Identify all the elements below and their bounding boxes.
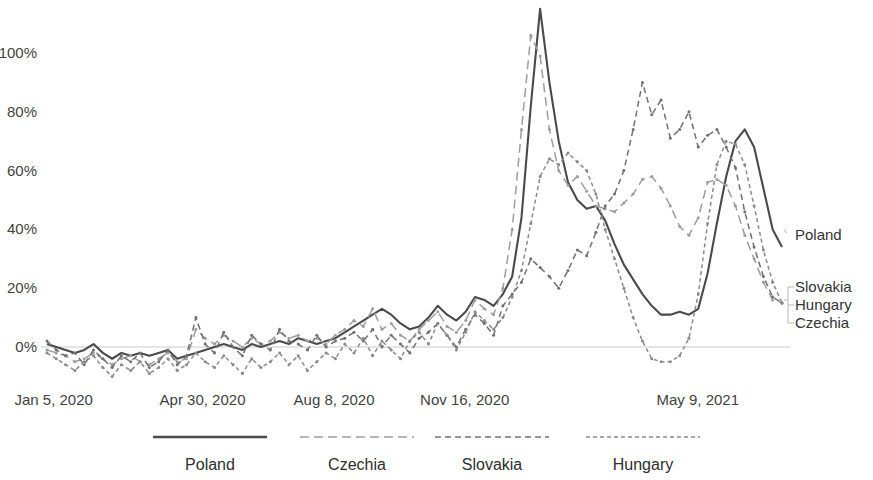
- series-end-label-poland: Poland: [795, 226, 842, 243]
- series-marker: [148, 366, 151, 369]
- series-marker: [306, 369, 309, 372]
- series-marker: [343, 337, 346, 340]
- series-line-hungary: [47, 141, 782, 376]
- series-marker: [241, 354, 244, 357]
- series-marker: [781, 301, 784, 304]
- series-marker: [166, 348, 169, 351]
- series-marker: [278, 328, 281, 331]
- series-marker: [557, 287, 560, 290]
- y-axis-tick-group: 0%20%40%60%80%100%: [0, 44, 37, 355]
- series-marker: [706, 222, 709, 225]
- series-marker: [725, 146, 728, 149]
- series-marker: [669, 204, 672, 207]
- series-end-label-hungary: Hungary: [795, 296, 852, 313]
- series-marker: [632, 128, 635, 131]
- series-marker: [473, 310, 476, 313]
- series-marker: [157, 366, 160, 369]
- series-marker: [334, 340, 337, 343]
- series-marker: [529, 222, 532, 225]
- series-marker: [259, 343, 262, 346]
- x-axis-tick-label: Nov 16, 2020: [420, 391, 509, 408]
- series-marker: [129, 369, 132, 372]
- series-marker: [715, 178, 718, 181]
- series-marker: [194, 316, 197, 319]
- x-axis-tick-group: Jan 5, 2020Apr 30, 2020Aug 8, 2020Nov 16…: [15, 391, 740, 408]
- series-marker: [287, 340, 290, 343]
- legend-label-hungary[interactable]: Hungary: [613, 456, 673, 473]
- series-marker: [734, 204, 737, 207]
- series-marker: [567, 184, 570, 187]
- series-end-label-slovakia: Slovakia: [795, 278, 852, 295]
- series-marker: [92, 348, 95, 351]
- series-marker: [650, 113, 653, 116]
- series-marker: [687, 234, 690, 237]
- series-marker: [613, 257, 616, 260]
- series-marker: [353, 319, 356, 322]
- series-marker: [399, 357, 402, 360]
- series-marker: [278, 351, 281, 354]
- series-marker: [539, 175, 542, 178]
- series-marker: [706, 181, 709, 184]
- series-marker: [204, 343, 207, 346]
- series-marker: [594, 204, 597, 207]
- series-marker: [185, 363, 188, 366]
- series-marker: [520, 281, 523, 284]
- series-marker: [297, 334, 300, 337]
- series-marker: [725, 184, 728, 187]
- series-marker: [678, 128, 681, 131]
- series-end-label-group: PolandSlovakiaHungaryCzechia: [784, 226, 852, 331]
- series-marker: [213, 351, 216, 354]
- series-slovakia: [46, 81, 784, 369]
- series-marker: [166, 357, 169, 360]
- series-marker: [641, 178, 644, 181]
- series-czechia: [46, 34, 784, 366]
- series-marker: [753, 204, 756, 207]
- series-marker: [548, 157, 551, 160]
- legend-group: PolandCzechiaSlovakiaHungary: [153, 437, 700, 473]
- series-marker: [715, 128, 718, 131]
- series-marker: [669, 360, 672, 363]
- callout-connector-poland: [784, 229, 788, 235]
- series-marker: [483, 319, 486, 322]
- series-marker: [473, 298, 476, 301]
- series-marker: [501, 287, 504, 290]
- series-marker: [213, 366, 216, 369]
- series-marker: [325, 346, 328, 349]
- series-marker: [697, 146, 700, 149]
- series-marker: [539, 266, 542, 269]
- legend-label-poland[interactable]: Poland: [185, 456, 235, 473]
- series-marker: [362, 325, 365, 328]
- series-marker: [594, 193, 597, 196]
- series-marker: [436, 310, 439, 313]
- series-marker: [492, 313, 495, 316]
- series-marker: [408, 340, 411, 343]
- series-marker: [83, 357, 86, 360]
- series-marker: [353, 331, 356, 334]
- series-marker: [436, 322, 439, 325]
- series-marker: [585, 254, 588, 257]
- series-line-slovakia: [47, 82, 782, 367]
- series-marker: [455, 348, 458, 351]
- series-marker: [427, 331, 430, 334]
- series-marker: [501, 304, 504, 307]
- legend-label-czechia[interactable]: Czechia: [328, 456, 386, 473]
- legend-label-slovakia[interactable]: Slovakia: [462, 456, 523, 473]
- series-marker: [743, 163, 746, 166]
- series-marker: [427, 319, 430, 322]
- y-axis-tick-label: 100%: [0, 44, 37, 61]
- series-marker: [380, 328, 383, 331]
- series-marker: [64, 354, 67, 357]
- series-marker: [427, 343, 430, 346]
- series-marker: [232, 363, 235, 366]
- series-marker: [650, 357, 653, 360]
- series-marker: [455, 331, 458, 334]
- y-axis-tick-label: 0%: [15, 338, 37, 355]
- series-marker: [325, 351, 328, 354]
- series-marker: [529, 257, 532, 260]
- series-marker: [334, 357, 337, 360]
- series-marker: [343, 328, 346, 331]
- series-marker: [613, 210, 616, 213]
- series-marker: [548, 275, 551, 278]
- series-marker: [139, 360, 142, 363]
- series-group: [46, 9, 784, 378]
